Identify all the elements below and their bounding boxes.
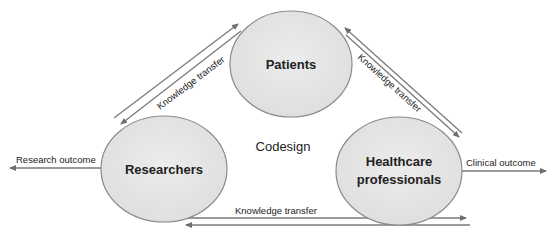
clinical-outcome-label: Clinical outcome xyxy=(466,157,536,168)
healthcare-label-line1: Healthcare xyxy=(366,154,432,169)
edge-label-researchers-patients: Knowledge transfer xyxy=(155,54,227,112)
edge-label-researchers-healthcare: Knowledge transfer xyxy=(235,205,317,216)
edge-researchers-patients: Knowledge transfer xyxy=(114,24,241,124)
node-patients: Patients xyxy=(230,11,352,117)
codesign-label: Codesign xyxy=(256,139,311,154)
patients-label: Patients xyxy=(266,57,317,72)
healthcare-ellipse xyxy=(336,117,462,225)
edge-label-patients-healthcare: Knowledge transfer xyxy=(356,51,424,114)
arrow-to-patients xyxy=(114,24,238,118)
codesign-diagram: Knowledge transfer Knowledge transfer Kn… xyxy=(0,0,551,235)
arrow-to-researchers xyxy=(121,31,241,124)
node-healthcare: Healthcare professionals xyxy=(336,117,462,225)
output-research: Research outcome xyxy=(10,154,101,168)
output-clinical: Clinical outcome xyxy=(462,157,546,171)
healthcare-label-line2: professionals xyxy=(357,172,442,187)
research-outcome-label: Research outcome xyxy=(16,154,96,165)
node-researchers: Researchers xyxy=(101,116,227,222)
researchers-label: Researchers xyxy=(125,162,203,177)
